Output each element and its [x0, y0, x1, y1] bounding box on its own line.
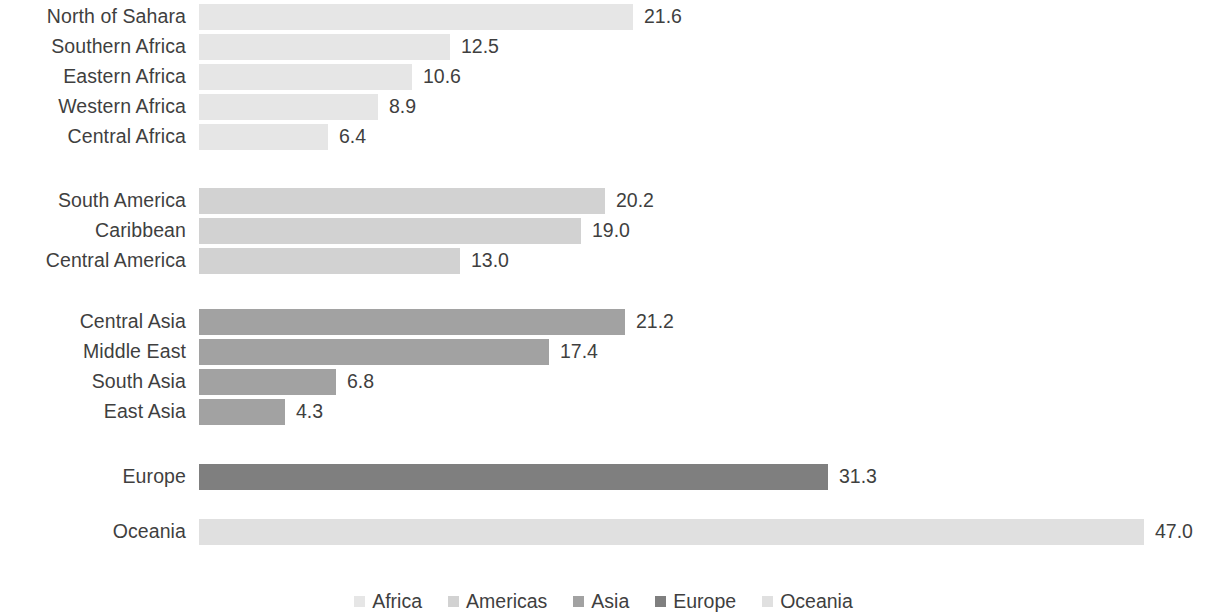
legend-swatch-icon: [354, 596, 365, 607]
bar-value-label: 6.4: [339, 127, 366, 147]
bar-track: 6.8: [199, 369, 1207, 395]
plot-area: North of Sahara21.6Southern Africa12.5Ea…: [0, 0, 1207, 578]
bar-track: 13.0: [199, 248, 1207, 274]
bar: [199, 369, 336, 395]
bar-row: Southern Africa12.5: [0, 34, 1207, 60]
bar-value-label: 21.2: [636, 312, 674, 332]
legend-label: Africa: [372, 592, 422, 612]
bar-category-label: South Asia: [0, 372, 186, 392]
bar-category-label: East Asia: [0, 402, 186, 422]
bar: [199, 188, 605, 214]
legend-label: Europe: [673, 592, 736, 612]
bar-category-label: Caribbean: [0, 221, 186, 241]
bar: [199, 4, 633, 30]
legend-label: Oceania: [780, 592, 853, 612]
bar: [199, 309, 625, 335]
legend-item[interactable]: Americas: [448, 592, 547, 612]
bar-track: 10.6: [199, 64, 1207, 90]
bar-row: Caribbean19.0: [0, 218, 1207, 244]
bar: [199, 464, 828, 490]
bar: [199, 218, 581, 244]
bar-track: 47.0: [199, 519, 1207, 545]
bar-value-label: 47.0: [1155, 522, 1193, 542]
legend-label: Asia: [591, 592, 629, 612]
bar-value-label: 4.3: [296, 402, 323, 422]
bar-row: Central America13.0: [0, 248, 1207, 274]
bar-category-label: Middle East: [0, 342, 186, 362]
bar-track: 31.3: [199, 464, 1207, 490]
bar-category-label: Southern Africa: [0, 37, 186, 57]
bar-track: 6.4: [199, 124, 1207, 150]
legend-swatch-icon: [762, 596, 773, 607]
bar-category-label: Eastern Africa: [0, 67, 186, 87]
bar-row: Central Africa6.4: [0, 124, 1207, 150]
bar-track: 4.3: [199, 399, 1207, 425]
bar-category-label: South America: [0, 191, 186, 211]
bar-row: Central Asia21.2: [0, 309, 1207, 335]
bar-track: 21.2: [199, 309, 1207, 335]
legend-item[interactable]: Africa: [354, 592, 422, 612]
bar-track: 17.4: [199, 339, 1207, 365]
bar-value-label: 19.0: [592, 221, 630, 241]
legend-item[interactable]: Oceania: [762, 592, 853, 612]
bar: [199, 34, 450, 60]
bar: [199, 124, 328, 150]
bar-track: 21.6: [199, 4, 1207, 30]
bar-row: Eastern Africa10.6: [0, 64, 1207, 90]
bar-track: 8.9: [199, 94, 1207, 120]
bar-category-label: North of Sahara: [0, 7, 186, 27]
bar-row: Middle East17.4: [0, 339, 1207, 365]
legend-label: Americas: [466, 592, 547, 612]
legend-item[interactable]: Asia: [573, 592, 629, 612]
bar-chart: North of Sahara21.6Southern Africa12.5Ea…: [0, 0, 1207, 613]
bar-row: South America20.2: [0, 188, 1207, 214]
bar-track: 20.2: [199, 188, 1207, 214]
bar-value-label: 21.6: [644, 7, 682, 27]
bar: [199, 64, 412, 90]
bar-row: South Asia6.8: [0, 369, 1207, 395]
bar-value-label: 20.2: [616, 191, 654, 211]
bar-category-label: Central Africa: [0, 127, 186, 147]
bar: [199, 94, 378, 120]
bar-row: North of Sahara21.6: [0, 4, 1207, 30]
bar: [199, 399, 285, 425]
bar-track: 19.0: [199, 218, 1207, 244]
bar-row: Western Africa8.9: [0, 94, 1207, 120]
bar-category-label: Oceania: [0, 522, 186, 542]
bar-category-label: Central America: [0, 251, 186, 271]
legend-swatch-icon: [448, 596, 459, 607]
bar-value-label: 8.9: [389, 97, 416, 117]
bar-value-label: 10.6: [423, 67, 461, 87]
legend-item[interactable]: Europe: [655, 592, 736, 612]
bar-row: Europe31.3: [0, 464, 1207, 490]
bar: [199, 519, 1144, 545]
chart-legend: AfricaAmericasAsiaEuropeOceania: [0, 592, 1207, 612]
bar-category-label: Central Asia: [0, 312, 186, 332]
bar: [199, 339, 549, 365]
legend-swatch-icon: [655, 596, 666, 607]
bar-category-label: Western Africa: [0, 97, 186, 117]
bar-value-label: 12.5: [461, 37, 499, 57]
bar-value-label: 13.0: [471, 251, 509, 271]
bar-value-label: 6.8: [347, 372, 374, 392]
bar-value-label: 31.3: [839, 467, 877, 487]
bar-row: Oceania47.0: [0, 519, 1207, 545]
bar-track: 12.5: [199, 34, 1207, 60]
bar-category-label: Europe: [0, 467, 186, 487]
bar-value-label: 17.4: [560, 342, 598, 362]
legend-swatch-icon: [573, 596, 584, 607]
bar: [199, 248, 460, 274]
bar-row: East Asia4.3: [0, 399, 1207, 425]
